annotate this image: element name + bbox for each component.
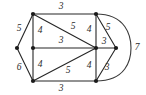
node-midleft xyxy=(31,46,35,50)
edge-weight-topright-midright: 4 xyxy=(87,24,92,34)
node-right xyxy=(114,46,118,50)
node-topright xyxy=(94,12,98,16)
edge-weight-topleft-topright: 3 xyxy=(58,1,64,11)
node-topleft xyxy=(31,12,35,16)
edge-weight-topleft-midleft: 4 xyxy=(38,25,43,35)
edge-weight-midright-bottomright: 4 xyxy=(87,60,92,70)
graph-diagram-figure: 5 6 3 4 4 3 3 5 5 4 4 5 3 3 7 xyxy=(0,0,146,95)
edge-weight-topleft-midright: 5 xyxy=(71,21,76,31)
graph-canvas: 5 6 3 4 4 3 3 5 5 4 4 5 3 3 7 xyxy=(0,0,146,95)
edge-weight-midleft-midright: 3 xyxy=(58,35,64,45)
edge-weight-bottomright-right: 3 xyxy=(104,62,110,72)
edge-weight-topright-right: 5 xyxy=(106,22,111,32)
edge-weight-topright-bottomright-arc: 7 xyxy=(135,42,141,52)
edge-weight-left-bottomleft: 6 xyxy=(17,62,22,72)
edge-weight-midright-right: 3 xyxy=(101,36,107,46)
edge-weight-left-topleft: 5 xyxy=(17,23,22,33)
node-left xyxy=(15,46,19,50)
edge-weight-bottomleft-bottomright: 3 xyxy=(58,83,64,93)
node-bottomright xyxy=(94,79,98,83)
edge-weight-bottomleft-midright: 5 xyxy=(66,65,71,75)
node-bottomleft xyxy=(31,79,35,83)
edge-weight-midleft-bottomleft: 4 xyxy=(38,59,43,69)
node-midright xyxy=(94,46,98,50)
